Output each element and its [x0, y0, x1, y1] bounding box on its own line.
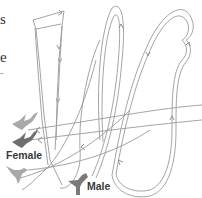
flight-path-j-swoop: [60, 40, 100, 188]
arrowhead: [38, 137, 42, 143]
hummingbird-female-light-icon: [12, 112, 38, 130]
flight-path-diagram: [0, 0, 202, 198]
arrowhead: [186, 42, 190, 46]
hummingbird-female-dark-icon: [12, 130, 38, 148]
flight-path-funnel-left2: [35, 28, 48, 165]
female-label: Female: [6, 149, 42, 161]
male-label: Male: [87, 180, 110, 192]
flight-path-funnel-inner: [36, 24, 61, 29]
flight-path-funnel-right: [55, 26, 62, 150]
hummingbird-female-light-icon: [6, 166, 28, 184]
flight-path-right-curl: [112, 10, 193, 197]
arrowhead: [118, 160, 123, 165]
